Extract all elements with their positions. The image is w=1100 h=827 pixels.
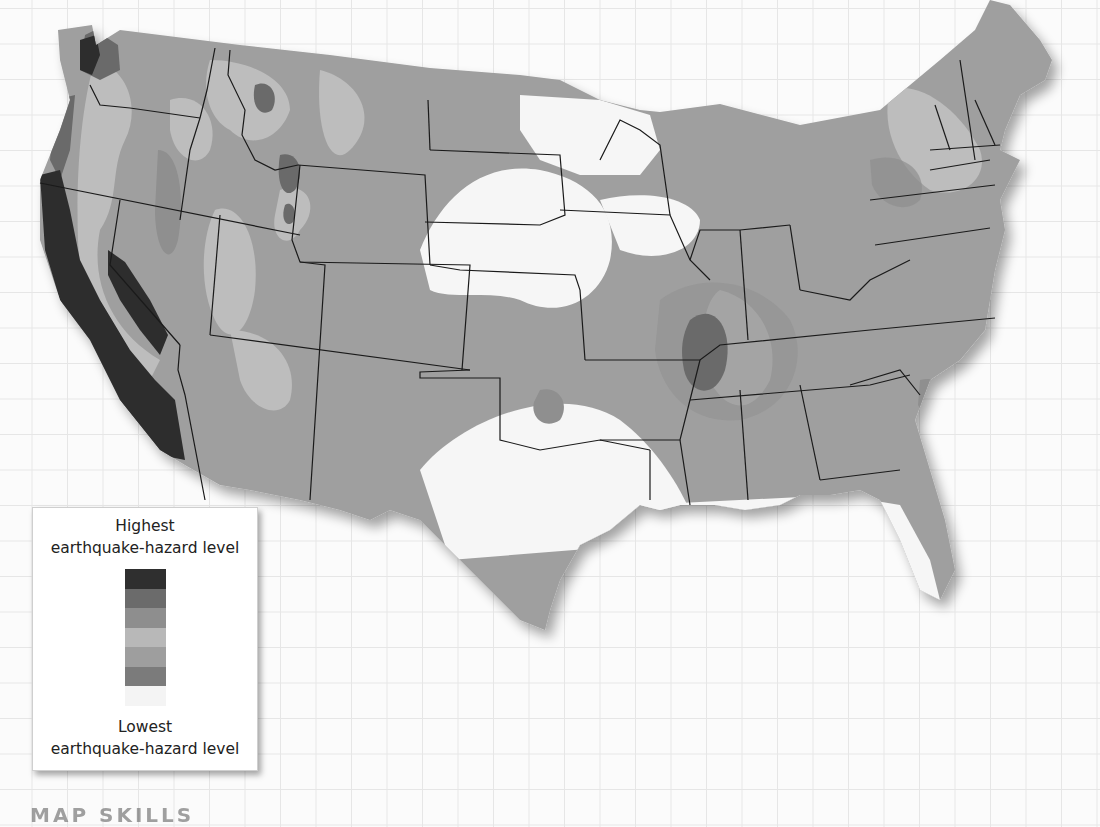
legend-top-title-line2: earthquake-hazard level bbox=[33, 537, 257, 559]
legend-bottom-title-line1: Lowest bbox=[33, 716, 257, 738]
section-heading-partial: MAP SKILLS bbox=[30, 805, 194, 825]
map-legend: Highest earthquake-hazard level Lowest e… bbox=[32, 507, 258, 771]
legend-top-title-line1: Highest bbox=[33, 515, 257, 537]
legend-bottom-title: Lowest earthquake-hazard level bbox=[33, 716, 257, 760]
legend-swatch-level-6 bbox=[125, 589, 166, 609]
legend-top-title: Highest earthquake-hazard level bbox=[33, 515, 257, 559]
legend-swatches bbox=[125, 569, 166, 706]
legend-swatch-level-7 bbox=[125, 569, 166, 589]
legend-bottom-title-line2: earthquake-hazard level bbox=[33, 738, 257, 760]
legend-swatch-level-4 bbox=[125, 628, 166, 648]
legend-swatch-level-3 bbox=[125, 647, 166, 667]
legend-swatch-level-5 bbox=[125, 608, 166, 628]
legend-swatch-level-1 bbox=[125, 686, 166, 706]
legend-swatch-level-2 bbox=[125, 667, 166, 687]
